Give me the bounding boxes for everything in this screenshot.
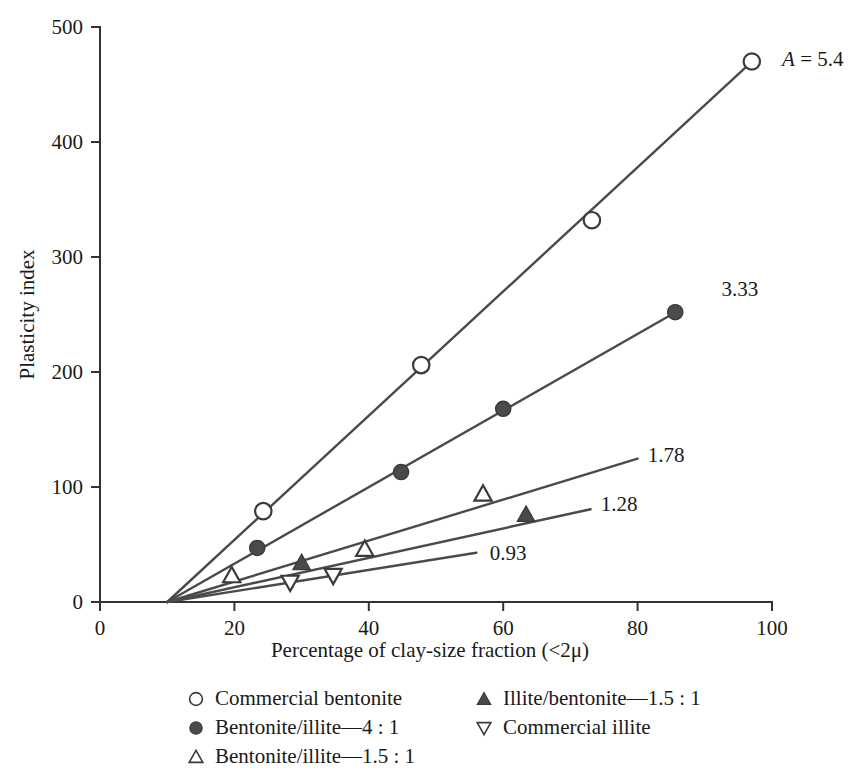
legend-item-label: Bentonite/illite—1.5 : 1	[215, 746, 415, 767]
legend-item-right-0[interactable]: Illite/bentonite—1.5 : 1	[474, 688, 746, 709]
x-tick-label: 0	[95, 616, 106, 640]
x-axis-title: Percentage of clay-size fraction (<2μ)	[271, 638, 589, 662]
axis-titles: Percentage of clay-size fraction (<2μ)Pl…	[15, 249, 589, 662]
legend-item-label: Bentonite/illite—4 : 1	[215, 717, 399, 738]
legend-item-left-0[interactable]: Commercial bentonite	[186, 688, 474, 709]
y-tick-label: 300	[52, 245, 84, 269]
legend-marker-open-triangle-up	[186, 747, 206, 767]
series-line-1	[167, 309, 681, 602]
data-point-s1-p1	[393, 464, 408, 479]
data-series	[167, 62, 752, 602]
y-axis-title: Plasticity index	[15, 249, 39, 380]
data-point-s0-p0	[255, 503, 271, 519]
x-tick-label: 80	[627, 616, 648, 640]
line-label-1: 3.33	[722, 277, 759, 301]
y-tick-label: 100	[52, 475, 84, 499]
x-tick-label: 60	[493, 616, 514, 640]
legend-item-label: Illite/bentonite—1.5 : 1	[503, 688, 701, 709]
line-label-0: A = 5.4	[780, 47, 844, 71]
data-point-s0-p3	[744, 53, 760, 69]
legend-swatch	[474, 689, 494, 709]
y-tick-label: 500	[52, 15, 84, 39]
legend-marker-filled-triangle-up	[474, 689, 494, 709]
legend-item-right-1[interactable]: Commercial illite	[474, 717, 746, 738]
data-point-s3-p1	[517, 506, 534, 521]
data-point-s0-p1	[413, 357, 429, 373]
x-tick-label: 40	[358, 616, 379, 640]
line-label-4: 0.93	[490, 541, 527, 565]
x-tick-label: 20	[224, 616, 245, 640]
activity-chart-figure: 0100200300400500020406080100 A = 5.43.33…	[0, 0, 868, 772]
plot-canvas: 0100200300400500020406080100 A = 5.43.33…	[0, 0, 868, 772]
legend-swatch	[186, 689, 206, 709]
legend-marker-filled-circle	[186, 718, 206, 738]
data-point-s2-p2	[474, 485, 491, 500]
series-line-0	[167, 62, 752, 602]
legend-swatch	[186, 718, 206, 738]
legend-marker-open-circle	[186, 689, 206, 709]
y-tick-label: 200	[52, 360, 84, 384]
y-tick-label: 0	[73, 590, 84, 614]
legend-item-label: Commercial bentonite	[215, 688, 402, 709]
data-point-s1-p3	[668, 305, 683, 320]
line-label-3: 1.28	[601, 492, 638, 516]
x-tick-label: 100	[756, 616, 788, 640]
legend-item-left-2[interactable]: Bentonite/illite—1.5 : 1	[186, 746, 474, 767]
y-tick-label: 400	[52, 130, 84, 154]
data-point-s0-p2	[584, 212, 600, 228]
data-point-s1-p0	[250, 540, 265, 555]
legend-item-left-1[interactable]: Bentonite/illite—4 : 1	[186, 717, 474, 738]
data-markers	[223, 53, 760, 591]
legend-swatch	[474, 718, 494, 738]
data-point-s1-p2	[496, 401, 511, 416]
series-line-3	[167, 509, 590, 602]
line-label-2: 1.78	[648, 443, 685, 467]
legend: Commercial bentoniteIllite/bentonite—1.5…	[186, 684, 746, 771]
legend-item-label: Commercial illite	[503, 717, 651, 738]
legend-swatch	[186, 747, 206, 767]
legend-marker-open-triangle-down	[474, 718, 494, 738]
